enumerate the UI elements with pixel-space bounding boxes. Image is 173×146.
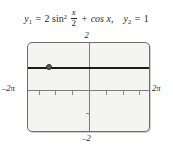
x-tick-mark <box>39 91 40 95</box>
trace-point-marker <box>46 64 52 70</box>
y2-value: 1 <box>144 13 149 24</box>
fraction-numerator: x <box>71 8 78 17</box>
y-axis-max-label: 2 <box>0 31 173 40</box>
sin-function: sin <box>52 13 64 24</box>
y2-subscript: 2 <box>128 18 131 25</box>
plus-sign: + <box>81 13 89 24</box>
sin-exponent: 2 <box>64 13 67 20</box>
x-tick-mark <box>123 91 124 95</box>
x-tick-mark <box>55 91 56 95</box>
plot-frame <box>27 42 150 132</box>
plot-area <box>28 43 149 131</box>
x-axis-min-label: –2π <box>2 84 15 93</box>
equation-caption: y1 = 2 sin2 x 2 + cos x, y2 = 1 <box>0 8 173 28</box>
graph-figure: 2 –2 –2π 2π <box>0 30 173 146</box>
x-tick-mark <box>139 91 140 95</box>
fraction-denominator: 2 <box>71 19 78 28</box>
x-tick-mark <box>72 91 73 95</box>
coefficient-2: 2 <box>45 13 50 24</box>
x-axis-max-label: 2π <box>152 84 161 93</box>
y-axis <box>89 43 90 131</box>
equals-sign-2: = <box>134 13 142 24</box>
y-axis-min-label: –2 <box>0 134 173 143</box>
y1-subscript: 1 <box>29 18 32 25</box>
cos-term: cos x <box>91 13 111 24</box>
comma-separator: , <box>111 13 114 24</box>
equals-sign-1: = <box>34 13 42 24</box>
y-tick-mark <box>86 113 90 114</box>
x-tick-mark <box>106 91 107 95</box>
x-over-2-fraction: x 2 <box>71 8 78 28</box>
